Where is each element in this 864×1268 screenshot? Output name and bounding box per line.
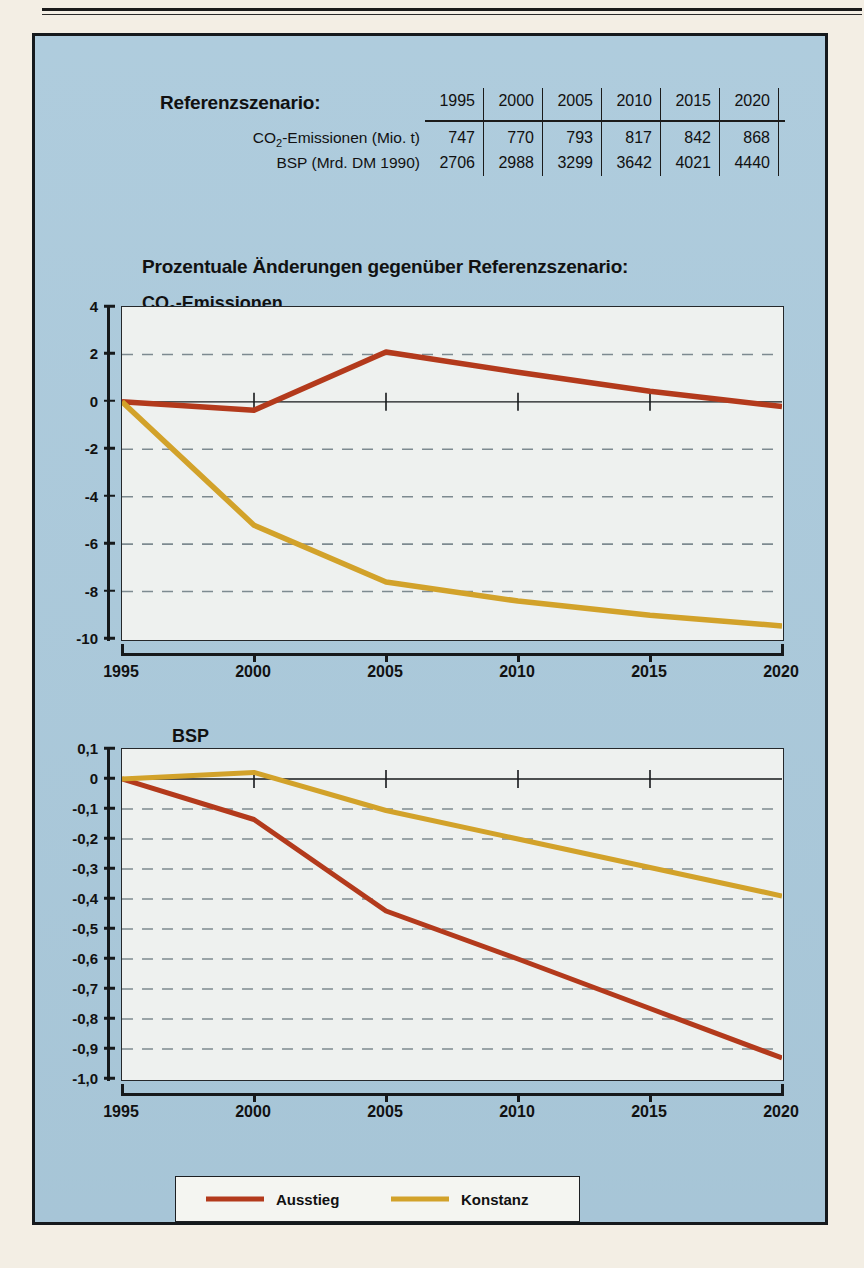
y-axis-label: 0 [50,392,98,409]
reference-row-label-co2: CO2-Emissionen (Mio. t) [130,129,420,149]
y-axis-line [107,748,110,1081]
x-axis-label: 2005 [367,663,403,681]
y-axis-label: -10 [50,630,98,647]
y-axis-label: -0,1 [50,800,98,817]
x-axis-label: 2005 [367,1103,403,1121]
legend-swatch-konstanz [391,1197,449,1202]
figure-panel: Referenzszenario: CO2-Emissionen (Mio. t… [32,33,828,1225]
x-axis-label: 2010 [499,1103,535,1121]
x-axis-tick [121,1084,124,1093]
x-axis-tick [253,653,256,662]
series-line-ausstieg [122,779,782,1058]
chart2-lines [122,749,782,1079]
y-axis-label: -2 [50,440,98,457]
legend-label-konstanz: Konstanz [461,1191,529,1208]
y-axis-label: -1,0 [50,1070,98,1087]
table-cell-co2: 817 [625,129,652,147]
table-column-2000: 2000 770 2988 [484,88,543,176]
y-axis-tick [104,352,115,355]
table-cell-bsp: 2988 [498,154,534,172]
table-cell-co2: 793 [566,129,593,147]
y-axis-tick [104,927,115,930]
table-cell-bsp: 3642 [616,154,652,172]
y-axis-tick [104,837,115,840]
y-axis-tick [104,867,115,870]
x-axis-label: 2020 [763,663,799,681]
y-axis-tick [104,637,115,640]
y-axis-label: 2 [50,345,98,362]
section-heading: Prozentuale Änderungen gegenüber Referen… [142,256,628,278]
x-axis-tick [121,644,124,653]
y-axis-label: -6 [50,535,98,552]
table-header-year: 1995 [439,92,475,110]
x-axis-label: 2015 [631,1103,667,1121]
y-axis-tick [104,957,115,960]
x-axis-line [121,653,784,656]
x-axis-tick [517,653,520,662]
y-axis-label: -0,7 [50,980,98,997]
y-axis-label: -0,4 [50,890,98,907]
x-axis-tick [649,653,652,662]
y-axis-tick [104,897,115,900]
x-axis-label: 2015 [631,663,667,681]
table-header-year: 2020 [734,92,770,110]
x-axis-tick [781,644,784,653]
y-axis-label: -0,8 [50,1010,98,1027]
y-axis-label: -0,2 [50,830,98,847]
table-cell-co2: 770 [507,129,534,147]
table-cell-co2: 747 [448,129,475,147]
series-line-konstanz [122,772,782,896]
y-axis-tick [104,1047,115,1050]
table-column-1995: 1995 747 2706 [425,88,484,176]
y-axis-tick [104,807,115,810]
y-axis-label: 4 [50,298,98,315]
y-axis-tick [104,305,115,308]
y-axis-tick [104,542,115,545]
legend-swatch-ausstieg [206,1197,264,1202]
chart1-lines [122,307,782,639]
top-rule [42,8,862,11]
table-header-year: 2010 [616,92,652,110]
x-axis-label: 1995 [103,1103,139,1121]
x-axis-tick [649,1093,652,1102]
table-column-2015: 2015 842 4021 [661,88,720,176]
y-axis-tick [104,1017,115,1020]
legend-item-ausstieg[interactable]: Ausstieg [206,1191,339,1208]
x-axis-tick [517,1093,520,1102]
y-axis-tick [104,1077,115,1080]
x-axis-line [121,1093,784,1096]
x-axis-tick [385,1093,388,1102]
legend-item-konstanz[interactable]: Konstanz [391,1191,529,1208]
table-header-year: 2000 [498,92,534,110]
y-axis-label: 0,1 [50,740,98,757]
table-cell-co2: 842 [684,129,711,147]
y-axis-tick [104,494,115,497]
y-axis-tick [104,747,115,750]
y-axis-label: -0,6 [50,950,98,967]
chart2-plot-area [121,748,784,1081]
reference-row-label-bsp: BSP (Mrd. DM 1990) [130,154,420,172]
y-axis-label: -0,9 [50,1040,98,1057]
table-cell-co2: 868 [743,129,770,147]
chart-legend: Ausstieg Konstanz [175,1176,580,1222]
table-column-2005: 2005 793 3299 [543,88,602,176]
reference-table-title: Referenzszenario: [160,92,320,114]
y-axis-tick [104,589,115,592]
x-axis-label: 2020 [763,1103,799,1121]
y-axis-label: 0 [50,770,98,787]
x-axis-tick [385,653,388,662]
y-axis-label: -0,3 [50,860,98,877]
table-column-2010: 2010 817 3642 [602,88,661,176]
table-header-year: 2015 [675,92,711,110]
table-header-year: 2005 [557,92,593,110]
table-cell-bsp: 2706 [439,154,475,172]
table-cell-bsp: 4021 [675,154,711,172]
x-axis-tick [781,1084,784,1093]
y-axis-label: -8 [50,582,98,599]
table-column-2020: 2020 868 4440 [720,88,779,176]
x-axis-label: 1995 [103,663,139,681]
x-axis-label: 2010 [499,663,535,681]
y-axis-label: -4 [50,487,98,504]
y-axis-tick [104,400,115,403]
y-axis-tick [104,777,115,780]
